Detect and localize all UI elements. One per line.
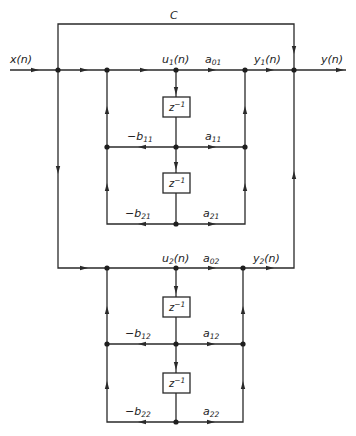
y2-label: y2(n): [252, 252, 280, 266]
a11-label: a11: [205, 130, 221, 144]
signal-flow-graph: x(n) y(n) C u1(n) a01 y1(n) −b11 a11 −b2…: [0, 0, 356, 436]
a02-label: a02: [203, 252, 220, 266]
b21-label: −b21: [125, 207, 151, 221]
u2-label: u2(n): [162, 252, 189, 266]
u1-label: u1(n): [162, 53, 189, 67]
output-label: y(n): [320, 53, 343, 66]
a12-label: a12: [203, 327, 220, 341]
a22-label: a22: [203, 405, 220, 419]
a01-label: a01: [205, 53, 221, 67]
feedforward-gain-label: C: [170, 9, 178, 22]
a21-label: a21: [203, 207, 219, 221]
input-label: x(n): [9, 53, 32, 66]
b11-label: −b11: [127, 130, 153, 144]
b12-label: −b12: [125, 327, 151, 341]
y1-label: y1(n): [253, 53, 281, 67]
b22-label: −b22: [125, 405, 151, 419]
